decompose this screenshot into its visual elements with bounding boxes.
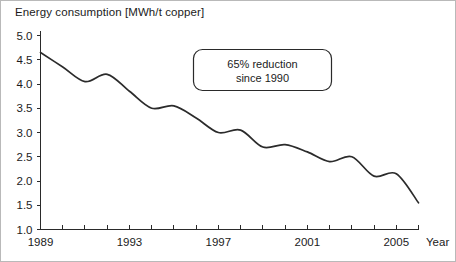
y-axis-tick-labels: 1.01.52.02.53.03.54.04.55.0	[17, 30, 33, 236]
chart-figure: Energy consumption [MWh/t copper] 1.01.5…	[0, 0, 456, 262]
line-chart-plot: 1.01.52.02.53.03.54.04.55.0 198919931997…	[1, 1, 456, 262]
y-tick-label: 3.0	[17, 127, 33, 139]
x-tick-label: 1993	[117, 236, 143, 248]
x-tick-label: 2005	[383, 236, 409, 248]
x-tick-label: 1997	[206, 236, 232, 248]
y-axis-tick-marks	[37, 36, 41, 230]
y-tick-label: 2.0	[17, 175, 33, 187]
y-tick-label: 5.0	[17, 30, 33, 42]
x-axis-tick-marks	[41, 225, 419, 230]
y-tick-label: 4.0	[17, 78, 33, 90]
y-tick-label: 2.5	[17, 151, 33, 163]
y-tick-label: 3.5	[17, 102, 33, 114]
x-tick-label: 2001	[295, 236, 321, 248]
x-axis-tick-labels: 19891993199720012005	[28, 236, 409, 248]
y-tick-label: 4.5	[17, 54, 33, 66]
y-tick-label: 1.5	[17, 199, 33, 211]
y-tick-label: 1.0	[17, 224, 33, 236]
annotation-line-1: 65% reduction	[227, 58, 297, 70]
x-axis-title: Year	[426, 236, 449, 248]
annotation-line-2: since 1990	[236, 72, 289, 84]
x-tick-label: 1989	[28, 236, 54, 248]
annotation-callout-box	[194, 50, 332, 91]
